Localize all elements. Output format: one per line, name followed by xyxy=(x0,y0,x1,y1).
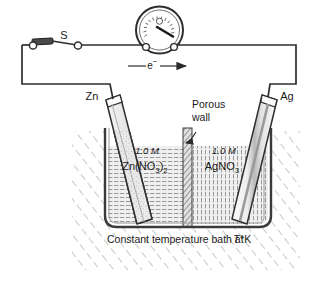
porous-wall-label-line1: Porous xyxy=(192,98,225,110)
meter-pivot-ring xyxy=(156,18,162,24)
switch-arm[interactable] xyxy=(52,41,77,45)
left-formula-main: Zn(NO xyxy=(122,160,155,172)
left-formula-sub2: 2 xyxy=(163,166,168,175)
diagram-canvas: S e − Zn Ag Porous wall 1.0 M Zn(NO3)2 1… xyxy=(0,0,314,282)
switch-label: S xyxy=(60,29,67,41)
switch-terminal-right[interactable] xyxy=(74,42,81,49)
meter-terminal-right xyxy=(171,44,178,51)
switch[interactable] xyxy=(29,38,81,49)
left-concentration-label: 1.0 M xyxy=(135,145,159,156)
right-concentration-label: 1.0 M xyxy=(212,145,236,156)
electron-label-group: e − xyxy=(147,57,157,71)
right-formula-sub1: 3 xyxy=(235,166,240,175)
electron-charge-label: − xyxy=(153,57,158,66)
bath-caption-text: Constant temperature bath at xyxy=(107,233,244,245)
porous-wall-annotation: Porous wall xyxy=(191,98,225,123)
right-formula-main: AgNO xyxy=(205,160,235,172)
silver-electrode-label: Ag xyxy=(280,90,293,102)
wire-left xyxy=(22,45,113,99)
zinc-electrode-label: Zn xyxy=(86,90,99,102)
cell-diagram-figure: S e − Zn Ag Porous wall 1.0 M Zn(NO3)2 1… xyxy=(0,0,314,282)
bath-caption-unit: °K xyxy=(240,233,251,245)
meter-terminal-left xyxy=(143,44,150,51)
galvanometer xyxy=(136,7,183,54)
bath-caption: Constant temperature bath at T °K xyxy=(107,233,251,245)
switch-terminal-left[interactable] xyxy=(29,42,36,49)
porous-wall-label-line2: wall xyxy=(191,111,210,123)
wire-right xyxy=(178,45,296,97)
